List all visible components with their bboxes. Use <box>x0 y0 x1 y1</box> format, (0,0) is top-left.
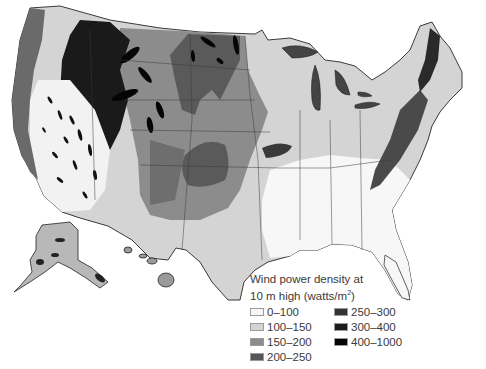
wind-power-density-map <box>0 0 486 369</box>
legend-swatch-250-300 <box>334 308 348 316</box>
legend-swatch-150-200 <box>250 338 264 346</box>
legend-title-line1: Wind power density at <box>250 273 486 286</box>
legend-item-250-300: 250–300 <box>334 306 396 318</box>
legend-swatch-0-100 <box>250 308 264 316</box>
legend-swatch-100-150 <box>250 323 264 331</box>
legend-item-300-400: 300–400 <box>334 321 396 333</box>
alaska <box>14 222 108 292</box>
legend-item-0-100: 0–100 <box>250 306 299 318</box>
legend-item-400-1000: 400–1000 <box>334 336 402 348</box>
map-legend: Wind power density at 10 m high (watts/m… <box>250 273 486 303</box>
legend-title: Wind power density at 10 m high (watts/m… <box>250 273 486 303</box>
legend-title-line2: 10 m high (watts/m2) <box>250 286 486 303</box>
legend-swatch-400-1000 <box>334 338 348 346</box>
legend-swatch-300-400 <box>334 323 348 331</box>
legend-swatch-200-250 <box>250 353 264 361</box>
legend-item-200-250: 200–250 <box>250 351 312 363</box>
legend-item-150-200: 150–200 <box>250 336 312 348</box>
legend-item-100-150: 100–150 <box>250 321 312 333</box>
